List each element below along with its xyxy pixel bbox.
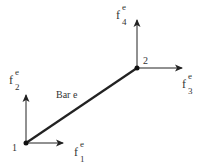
node-1-dot: [24, 141, 29, 146]
bar-element-diagram: 1 2 Bar e f e 1 f e 2 f e 3 f e 4: [0, 0, 202, 168]
svg-text:f: f: [116, 8, 120, 22]
svg-text:f: f: [182, 77, 186, 91]
force-f4-label: f e 4: [116, 2, 127, 27]
svg-text:2: 2: [15, 82, 20, 92]
node-2-dot: [135, 66, 140, 71]
force-f2-label: f e 2: [9, 67, 20, 92]
bar-e-line: [26, 68, 137, 143]
svg-text:e: e: [188, 71, 192, 81]
force-f3-label: f e 3: [182, 71, 193, 96]
svg-text:e: e: [122, 2, 126, 12]
node-1-label: 1: [12, 142, 17, 153]
node-2-label: 2: [143, 55, 148, 66]
svg-text:e: e: [80, 139, 84, 149]
svg-text:1: 1: [80, 154, 85, 164]
bar-label: Bar e: [56, 89, 78, 100]
svg-text:e: e: [15, 67, 19, 77]
svg-text:f: f: [9, 73, 13, 87]
svg-text:4: 4: [122, 17, 127, 27]
force-f1-label: f e 1: [74, 139, 85, 164]
svg-text:3: 3: [188, 86, 193, 96]
svg-text:f: f: [74, 145, 78, 159]
